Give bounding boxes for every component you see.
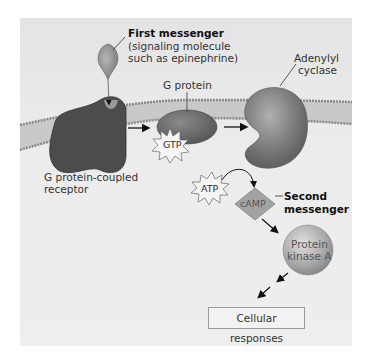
receptor-label-2: receptor [44,183,88,195]
pka-label-2: kinase A [287,250,332,262]
first-messenger-desc-1: (signaling molecule [128,40,231,52]
g-protein-label: G protein [163,79,212,91]
adenylyl-cyclase-label-1: Adenylyl [294,52,339,64]
first-messenger-desc-2: such as epinephrine) [128,52,238,64]
adenylyl-cyclase [245,88,308,169]
pka-label-1: Protein [291,238,328,250]
adenylyl-cyclase-label-2: cyclase [298,64,337,76]
first-messenger-label: First messenger [128,27,224,39]
atp-label: ATP [201,183,218,195]
second-messenger-label-2: messenger [284,203,349,215]
camp-label: cAMP [240,198,266,210]
cellular-responses-box: Cellular responses [208,307,305,329]
gtp-label: GTP [163,139,182,151]
g-protein-coupled-receptor [50,97,126,173]
second-messenger-label-1: Second [284,190,327,202]
receptor-label-1: G protein-coupled [44,171,138,183]
first-messenger-molecule-icon [98,44,118,80]
